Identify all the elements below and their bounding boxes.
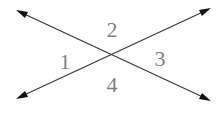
angle-label-2: 2 <box>107 17 118 42</box>
arrowhead-lower-right-icon <box>199 93 211 101</box>
angle-label-3: 3 <box>155 46 166 71</box>
angle-label-4: 4 <box>107 72 118 97</box>
arrowhead-upper-left-icon <box>16 10 28 18</box>
angle-label-1: 1 <box>60 49 71 74</box>
intersecting-lines-diagram: 1 2 3 4 <box>0 0 224 122</box>
arrowhead-lower-left-icon <box>16 91 28 99</box>
arrowhead-upper-right-icon <box>199 8 211 16</box>
